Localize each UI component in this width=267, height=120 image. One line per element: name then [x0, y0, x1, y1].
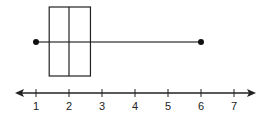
tick-label: 2 [66, 100, 72, 112]
maximum-point [198, 39, 204, 45]
number-line-axis: 1234567 [15, 89, 256, 112]
box-plot-chart: 1234567 [0, 0, 267, 120]
tick-label: 7 [231, 100, 237, 112]
minimum-point [33, 39, 39, 45]
tick-label: 6 [198, 100, 204, 112]
box-plot [33, 7, 204, 76]
tick-label: 4 [132, 100, 138, 112]
tick-label: 5 [165, 100, 171, 112]
tick-label: 3 [99, 100, 105, 112]
tick-label: 1 [33, 100, 39, 112]
